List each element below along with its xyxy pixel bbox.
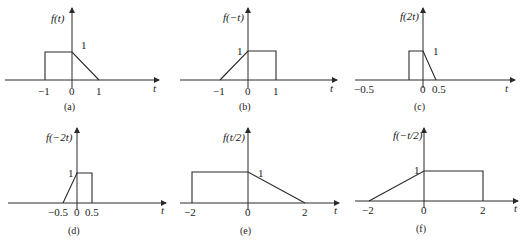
height-label: 1 [258, 167, 264, 179]
x-axis-label: t [330, 82, 334, 94]
height-label: 1 [81, 39, 87, 51]
tick-label: −2 [184, 206, 196, 218]
panel-a: f(t) 1 −1 0 1 t (a) [5, 8, 159, 113]
tick-label: 2 [480, 204, 486, 216]
x-axis-label: t [161, 204, 165, 216]
panel-f: f(−t/2) 1 −2 0 2 t (f) [355, 128, 518, 235]
tick-label: −1 [213, 85, 225, 97]
tick-label: 1 [273, 85, 279, 97]
panel-caption: (e) [240, 225, 251, 237]
panel-e: f(t/2) 1 −2 0 2 t (e) [180, 128, 339, 237]
signal-transform-figure: f(t) 1 −1 0 1 t (a) f(−t) 1 −1 0 1 t (b)… [0, 0, 521, 243]
x-axis-label: t [334, 204, 338, 216]
panel-caption: (f) [416, 223, 426, 235]
tick-label: −0.5 [354, 83, 374, 95]
height-label: 1 [414, 164, 420, 176]
tick-label: 0 [245, 206, 251, 218]
x-axis-label: t [514, 202, 518, 214]
panel-d: f(−2t) 1 −0.5 0 0.5 t (d) [8, 128, 166, 237]
y-axis-label: f(−t/2) [393, 129, 423, 142]
tick-label: 0 [420, 83, 426, 95]
tick-label: 2 [302, 206, 308, 218]
panel-caption: (a) [64, 101, 75, 113]
x-axis-label: t [505, 82, 509, 94]
tick-label: −2 [362, 204, 374, 216]
y-axis-label: f(t) [51, 12, 65, 25]
x-axis-label: t [153, 82, 157, 94]
tick-label: 1 [96, 85, 102, 97]
tick-label: 0.5 [432, 83, 446, 95]
panel-c: f(2t) 1 −0.5 0 0.5 t (c) [354, 8, 515, 113]
y-axis-label: f(−2t) [46, 131, 73, 144]
signal-curve [369, 171, 483, 201]
tick-label: 0 [74, 206, 80, 218]
height-label: 1 [433, 45, 439, 57]
panel-caption: (d) [68, 225, 80, 237]
y-axis-label: f(t/2) [223, 131, 245, 144]
panel-caption: (b) [239, 101, 251, 113]
y-axis-label: f(−t) [223, 11, 244, 24]
height-label: 1 [68, 167, 74, 179]
height-label: 1 [237, 45, 243, 57]
tick-label: 0.5 [85, 206, 99, 218]
tick-label: 0 [69, 85, 75, 97]
y-axis-label: f(2t) [400, 10, 419, 23]
tick-label: −1 [38, 85, 50, 97]
panel-b: f(−t) 1 −1 0 1 t (b) [180, 8, 337, 113]
tick-label: 0 [245, 85, 251, 97]
tick-label: −0.5 [48, 206, 68, 218]
tick-label: 0 [421, 204, 427, 216]
panel-caption: (c) [414, 101, 425, 113]
